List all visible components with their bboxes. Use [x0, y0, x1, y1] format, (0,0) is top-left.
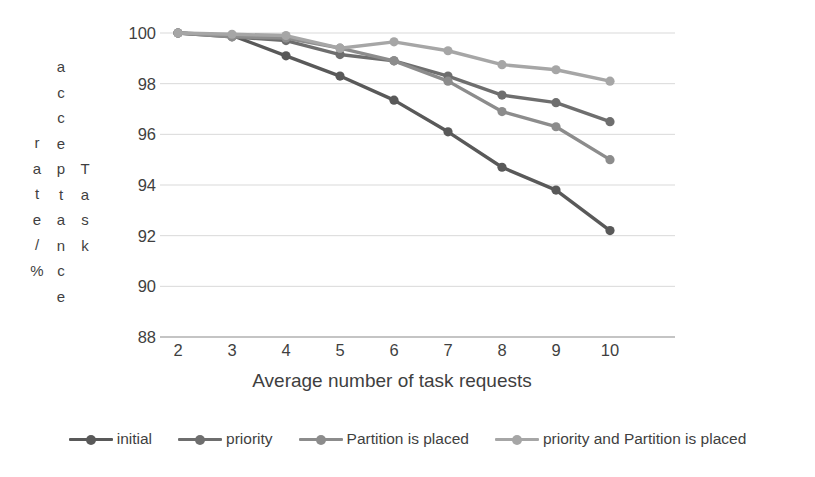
plot-area [0, 0, 815, 477]
series-marker [335, 44, 344, 53]
x-axis-tick-label: 9 [536, 341, 576, 360]
legend-swatch-icon [178, 433, 222, 445]
series-marker [605, 226, 614, 235]
legend-label: initial [117, 430, 152, 448]
series-marker [335, 71, 344, 80]
legend-swatch-icon [299, 433, 343, 445]
series-marker [551, 185, 560, 194]
x-axis-tick-label: 4 [266, 341, 306, 360]
series-marker [443, 127, 452, 136]
legend-item[interactable]: priority [178, 430, 273, 448]
series-marker [443, 46, 452, 55]
chart-legend: initialpriorityPartition is placedpriori… [0, 424, 815, 454]
x-axis-tick-label: 6 [374, 341, 414, 360]
series-marker [497, 60, 506, 69]
x-axis-tick-label: 10 [590, 341, 630, 360]
series-marker [551, 65, 560, 74]
series-marker [551, 98, 560, 107]
line-chart: rate/%acceptanceTask 100989694929088 234… [0, 0, 815, 477]
series-marker [605, 155, 614, 164]
legend-label: priority and Partition is placed [543, 430, 746, 448]
series-marker [389, 37, 398, 46]
legend-swatch-icon [69, 433, 113, 445]
legend-label: priority [226, 430, 273, 448]
series-marker [173, 28, 182, 37]
legend-label: Partition is placed [347, 430, 469, 448]
legend-item[interactable]: priority and Partition is placed [495, 430, 746, 448]
series-marker [497, 107, 506, 116]
series-marker [389, 96, 398, 105]
x-axis-tick-labels: 2345678910 [0, 341, 815, 365]
x-axis-tick-label: 3 [212, 341, 252, 360]
x-axis-tick-label: 5 [320, 341, 360, 360]
series-marker [605, 77, 614, 86]
legend-swatch-icon [495, 433, 539, 445]
series-marker [551, 122, 560, 131]
legend-marker-dot [86, 435, 96, 445]
x-axis-title: Average number of task requests [178, 370, 606, 392]
series-marker [497, 163, 506, 172]
series-marker [227, 30, 236, 39]
series-marker [497, 90, 506, 99]
series-marker [443, 77, 452, 86]
legend-marker-dot [316, 435, 326, 445]
series-marker [605, 117, 614, 126]
legend-item[interactable]: initial [69, 430, 152, 448]
legend-item[interactable]: Partition is placed [299, 430, 469, 448]
x-axis-tick-label: 7 [428, 341, 468, 360]
legend-marker-dot [195, 435, 205, 445]
series-marker [389, 56, 398, 65]
series-marker [281, 31, 290, 40]
series-marker [281, 51, 290, 60]
legend-marker-dot [512, 435, 522, 445]
x-axis-tick-label: 8 [482, 341, 522, 360]
x-axis-tick-label: 2 [158, 341, 198, 360]
